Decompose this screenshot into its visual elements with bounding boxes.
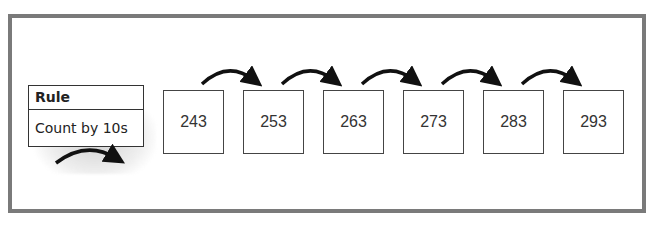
sequence-value: 273 xyxy=(420,113,447,131)
rule-title: Rule xyxy=(29,86,143,110)
sequence-box-4: 273 xyxy=(403,90,464,154)
sequence-value: 263 xyxy=(340,113,367,131)
sequence-box-5: 283 xyxy=(483,90,544,154)
sequence-value: 283 xyxy=(500,113,527,131)
sequence-box-6: 293 xyxy=(563,90,624,154)
rule-box: Rule Count by 10s xyxy=(28,85,144,147)
sequence-box-1: 243 xyxy=(163,90,224,154)
sequence-value: 253 xyxy=(260,113,287,131)
sequence-value: 243 xyxy=(180,113,207,131)
sequence-box-2: 253 xyxy=(243,90,304,154)
sequence-box-3: 263 xyxy=(323,90,384,154)
rule-text: Count by 10s xyxy=(29,110,143,146)
sequence-value: 293 xyxy=(580,113,607,131)
